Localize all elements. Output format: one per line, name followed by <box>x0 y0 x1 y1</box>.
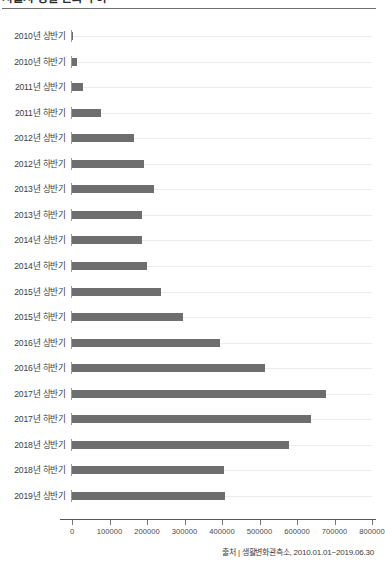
axis-tick <box>185 520 186 525</box>
axis-tick <box>260 520 261 525</box>
gridline <box>72 36 372 37</box>
chart-row: 2017년 하반기 <box>0 408 380 430</box>
category-label: 2010년 상반기 <box>0 25 66 47</box>
category-label: 2014년 상반기 <box>0 229 66 251</box>
chart-row: 2011년 상반기 <box>0 76 380 98</box>
x-axis-line <box>60 519 376 520</box>
plot-area: 2010년 상반기2010년 하반기2011년 상반기2011년 하반기2012… <box>0 22 380 522</box>
bar <box>72 58 77 66</box>
axis-tick-label: 600000 <box>284 527 309 536</box>
bar <box>72 339 220 347</box>
category-label: 2017년 상반기 <box>0 383 66 405</box>
chart-row: 2018년 상반기 <box>0 434 380 456</box>
source-note: 출처 | 생활변화관측소, 2010.01.01~2019.06.30 <box>222 546 374 557</box>
category-label: 2013년 하반기 <box>0 204 66 226</box>
gridline <box>72 62 372 63</box>
category-label: 2016년 하반기 <box>0 357 66 379</box>
category-label: 2013년 상반기 <box>0 178 66 200</box>
axis-tick <box>110 520 111 525</box>
bar <box>72 364 265 372</box>
chart-row: 2010년 상반기 <box>0 25 380 47</box>
bar <box>72 390 326 398</box>
axis-tick-label: 800000 <box>359 527 384 536</box>
chart-row: 2015년 하반기 <box>0 306 380 328</box>
axis-tick-label: 0 <box>70 527 74 536</box>
category-label: 2018년 상반기 <box>0 434 66 456</box>
chart-row: 2013년 상반기 <box>0 178 380 200</box>
chart-row: 2012년 상반기 <box>0 127 380 149</box>
axis-tick-label: 100000 <box>97 527 122 536</box>
bar <box>72 492 225 500</box>
gridline <box>72 87 372 88</box>
bar <box>72 236 142 244</box>
category-label: 2012년 하반기 <box>0 153 66 175</box>
category-label: 2014년 하반기 <box>0 255 66 277</box>
axis-tick-label: 400000 <box>209 527 234 536</box>
chart-row: 2014년 하반기 <box>0 255 380 277</box>
axis-tick <box>222 520 223 525</box>
axis-tick <box>72 520 73 525</box>
chart-row: 2017년 상반기 <box>0 383 380 405</box>
category-label: 2017년 하반기 <box>0 408 66 430</box>
chart-row: 2010년 하반기 <box>0 51 380 73</box>
bar <box>72 109 101 117</box>
category-label: 2011년 하반기 <box>0 102 66 124</box>
axis-tick <box>297 520 298 525</box>
category-label: 2015년 상반기 <box>0 281 66 303</box>
title-divider <box>2 8 376 9</box>
bar <box>72 313 183 321</box>
bar <box>72 211 142 219</box>
bar <box>72 262 147 270</box>
bar <box>72 134 134 142</box>
page-title: 서울시 생활 변화 추이 <box>0 0 380 5</box>
bar <box>72 160 144 168</box>
chart-row: 2015년 상반기 <box>0 281 380 303</box>
chart-row: 2011년 하반기 <box>0 102 380 124</box>
axis-tick-label: 500000 <box>247 527 272 536</box>
bar <box>72 83 83 91</box>
chart-row: 2016년 하반기 <box>0 357 380 379</box>
gridline <box>72 113 372 114</box>
axis-tick-label: 300000 <box>172 527 197 536</box>
axis-tick-label: 700000 <box>322 527 347 536</box>
bar <box>72 32 73 40</box>
bar <box>72 415 311 423</box>
chart-row: 2014년 상반기 <box>0 229 380 251</box>
bar <box>72 185 154 193</box>
bar <box>72 288 161 296</box>
chart-row: 2012년 하반기 <box>0 153 380 175</box>
axis-tick-label: 200000 <box>134 527 159 536</box>
chart-row: 2019년 상반기 <box>0 485 380 507</box>
category-label: 2019년 상반기 <box>0 485 66 507</box>
category-label: 2011년 상반기 <box>0 76 66 98</box>
category-label: 2016년 상반기 <box>0 332 66 354</box>
chart-row: 2016년 상반기 <box>0 332 380 354</box>
axis-tick <box>372 520 373 525</box>
category-label: 2012년 상반기 <box>0 127 66 149</box>
category-label: 2015년 하반기 <box>0 306 66 328</box>
category-label: 2018년 하반기 <box>0 459 66 481</box>
bar <box>72 441 289 449</box>
bar <box>72 466 224 474</box>
chart-row: 2013년 하반기 <box>0 204 380 226</box>
axis-tick <box>335 520 336 525</box>
category-label: 2010년 하반기 <box>0 51 66 73</box>
axis-tick <box>147 520 148 525</box>
chart-row: 2018년 하반기 <box>0 459 380 481</box>
